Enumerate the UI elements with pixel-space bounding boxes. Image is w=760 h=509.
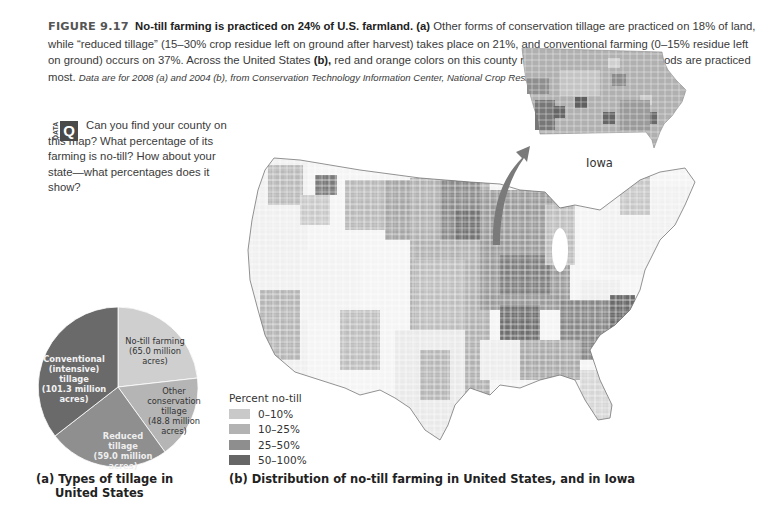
iowa-inset-map [522, 48, 686, 148]
legend-item: 10–25% [229, 422, 307, 438]
legend-item: 0–10% [229, 406, 307, 422]
legend-swatch-10-25 [229, 424, 250, 434]
legend-label: 0–10% [258, 408, 293, 420]
legend-item: 50–100% [229, 453, 307, 469]
legend-swatch-50-100 [229, 455, 250, 465]
legend-swatch-25-50 [229, 440, 250, 450]
map-legend: Percent no-till 0–10% 10–25% 25–50% 50–1… [229, 392, 307, 468]
legend-title: Percent no-till [229, 392, 307, 404]
legend-label: 25–50% [258, 439, 300, 451]
legend-label: 50–100% [258, 454, 307, 466]
panel-b-caption: (b) Distribution of no-till farming in U… [229, 472, 635, 486]
legend-swatch-0-10 [229, 409, 250, 419]
iowa-inset-label: Iowa [586, 156, 613, 170]
legend-label: 10–25% [258, 423, 300, 435]
legend-item: 25–50% [229, 437, 307, 453]
